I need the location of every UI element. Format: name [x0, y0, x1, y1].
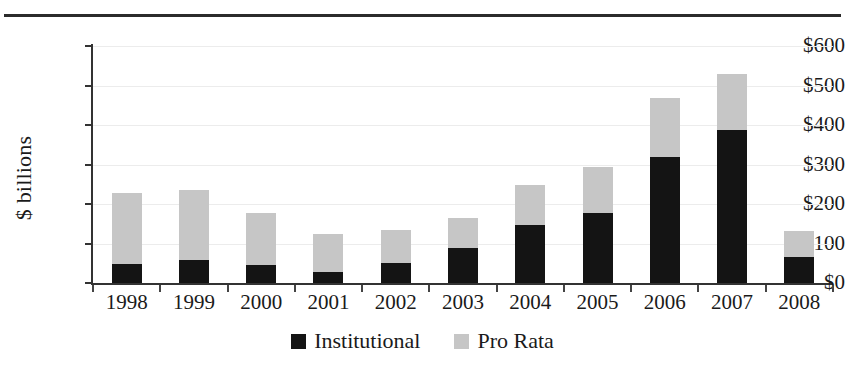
- bar-segment-pro-rata: [650, 98, 680, 157]
- bar-1999: [179, 190, 209, 283]
- chart-legend: InstitutionalPro Rata: [0, 330, 845, 352]
- legend-label: Institutional: [314, 330, 420, 352]
- y-tick-mark: [85, 164, 92, 166]
- x-tick-label: 2000: [228, 290, 295, 314]
- bar-segment-institutional: [313, 272, 343, 283]
- y-tick-mark: [85, 124, 92, 126]
- bar-2000: [246, 213, 276, 283]
- x-tick-label: 2001: [295, 290, 362, 314]
- x-tick-label: 2002: [362, 290, 429, 314]
- bar-2006: [650, 98, 680, 283]
- bar-segment-pro-rata: [381, 230, 411, 263]
- y-tick-mark: [85, 203, 92, 205]
- x-tick-label: 2006: [631, 290, 698, 314]
- bar-2004: [515, 185, 545, 283]
- bar-segment-institutional: [650, 157, 680, 283]
- bar-segment-pro-rata: [246, 213, 276, 265]
- bar-2007: [717, 74, 747, 283]
- legend-item-institutional: Institutional: [291, 330, 420, 352]
- x-axis-line: [91, 283, 833, 285]
- bar-segment-pro-rata: [448, 218, 478, 248]
- x-tick-label: 2003: [429, 290, 496, 314]
- y-axis-title: $ billions: [11, 108, 37, 248]
- bar-segment-institutional: [515, 225, 545, 283]
- bar-segment-institutional: [583, 213, 613, 283]
- bar-2003: [448, 218, 478, 283]
- bar-segment-pro-rata: [784, 231, 814, 257]
- stacked-bar-chart: $ billions $0$100$200$300$400$500$600 19…: [0, 0, 845, 369]
- y-tick-mark: [85, 85, 92, 87]
- y-tick-mark: [85, 243, 92, 245]
- bar-2002: [381, 230, 411, 283]
- bar-segment-institutional: [381, 263, 411, 283]
- bar-segment-institutional: [246, 265, 276, 283]
- y-tick-mark: [85, 45, 92, 47]
- bar-2005: [583, 167, 613, 283]
- bar-2001: [313, 234, 343, 283]
- plot-area: [93, 46, 833, 283]
- x-tick-label: 1999: [160, 290, 227, 314]
- legend-label: Pro Rata: [477, 330, 553, 352]
- bar-segment-institutional: [784, 257, 814, 283]
- x-tick-label: 2008: [766, 290, 833, 314]
- y-tick-mark: [85, 282, 92, 284]
- bar-segment-institutional: [179, 260, 209, 283]
- x-tick-label: 2007: [698, 290, 765, 314]
- bar-segment-pro-rata: [583, 167, 613, 213]
- gray-square-swatch: [454, 334, 469, 349]
- bar-segment-institutional: [112, 264, 142, 283]
- bar-segment-pro-rata: [313, 234, 343, 272]
- legend-item-pro-rata: Pro Rata: [454, 330, 553, 352]
- bar-segment-pro-rata: [717, 74, 747, 130]
- bar-segment-pro-rata: [515, 185, 545, 225]
- black-square-swatch: [291, 334, 306, 349]
- x-tick-label: 2004: [497, 290, 564, 314]
- bar-1998: [112, 193, 142, 283]
- bar-segment-pro-rata: [179, 190, 209, 260]
- x-tick-label: 2005: [564, 290, 631, 314]
- bar-2008: [784, 231, 814, 283]
- x-tick-label: 1998: [93, 290, 160, 314]
- bar-segment-institutional: [717, 130, 747, 283]
- bar-segment-pro-rata: [112, 193, 142, 264]
- bar-segment-institutional: [448, 248, 478, 283]
